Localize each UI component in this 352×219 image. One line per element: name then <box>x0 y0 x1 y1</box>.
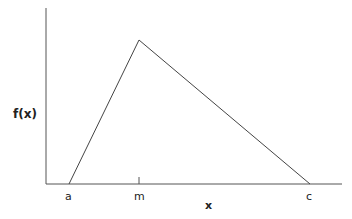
tick-label-m: m <box>134 191 145 202</box>
tick-label-c: c <box>306 191 312 202</box>
tick-label-a: a <box>65 191 72 202</box>
triangle-pdf-line <box>69 40 310 184</box>
triangular-distribution-plot <box>0 0 352 219</box>
x-axis-label: x <box>205 200 212 211</box>
y-axis-label: f(x) <box>13 108 37 120</box>
